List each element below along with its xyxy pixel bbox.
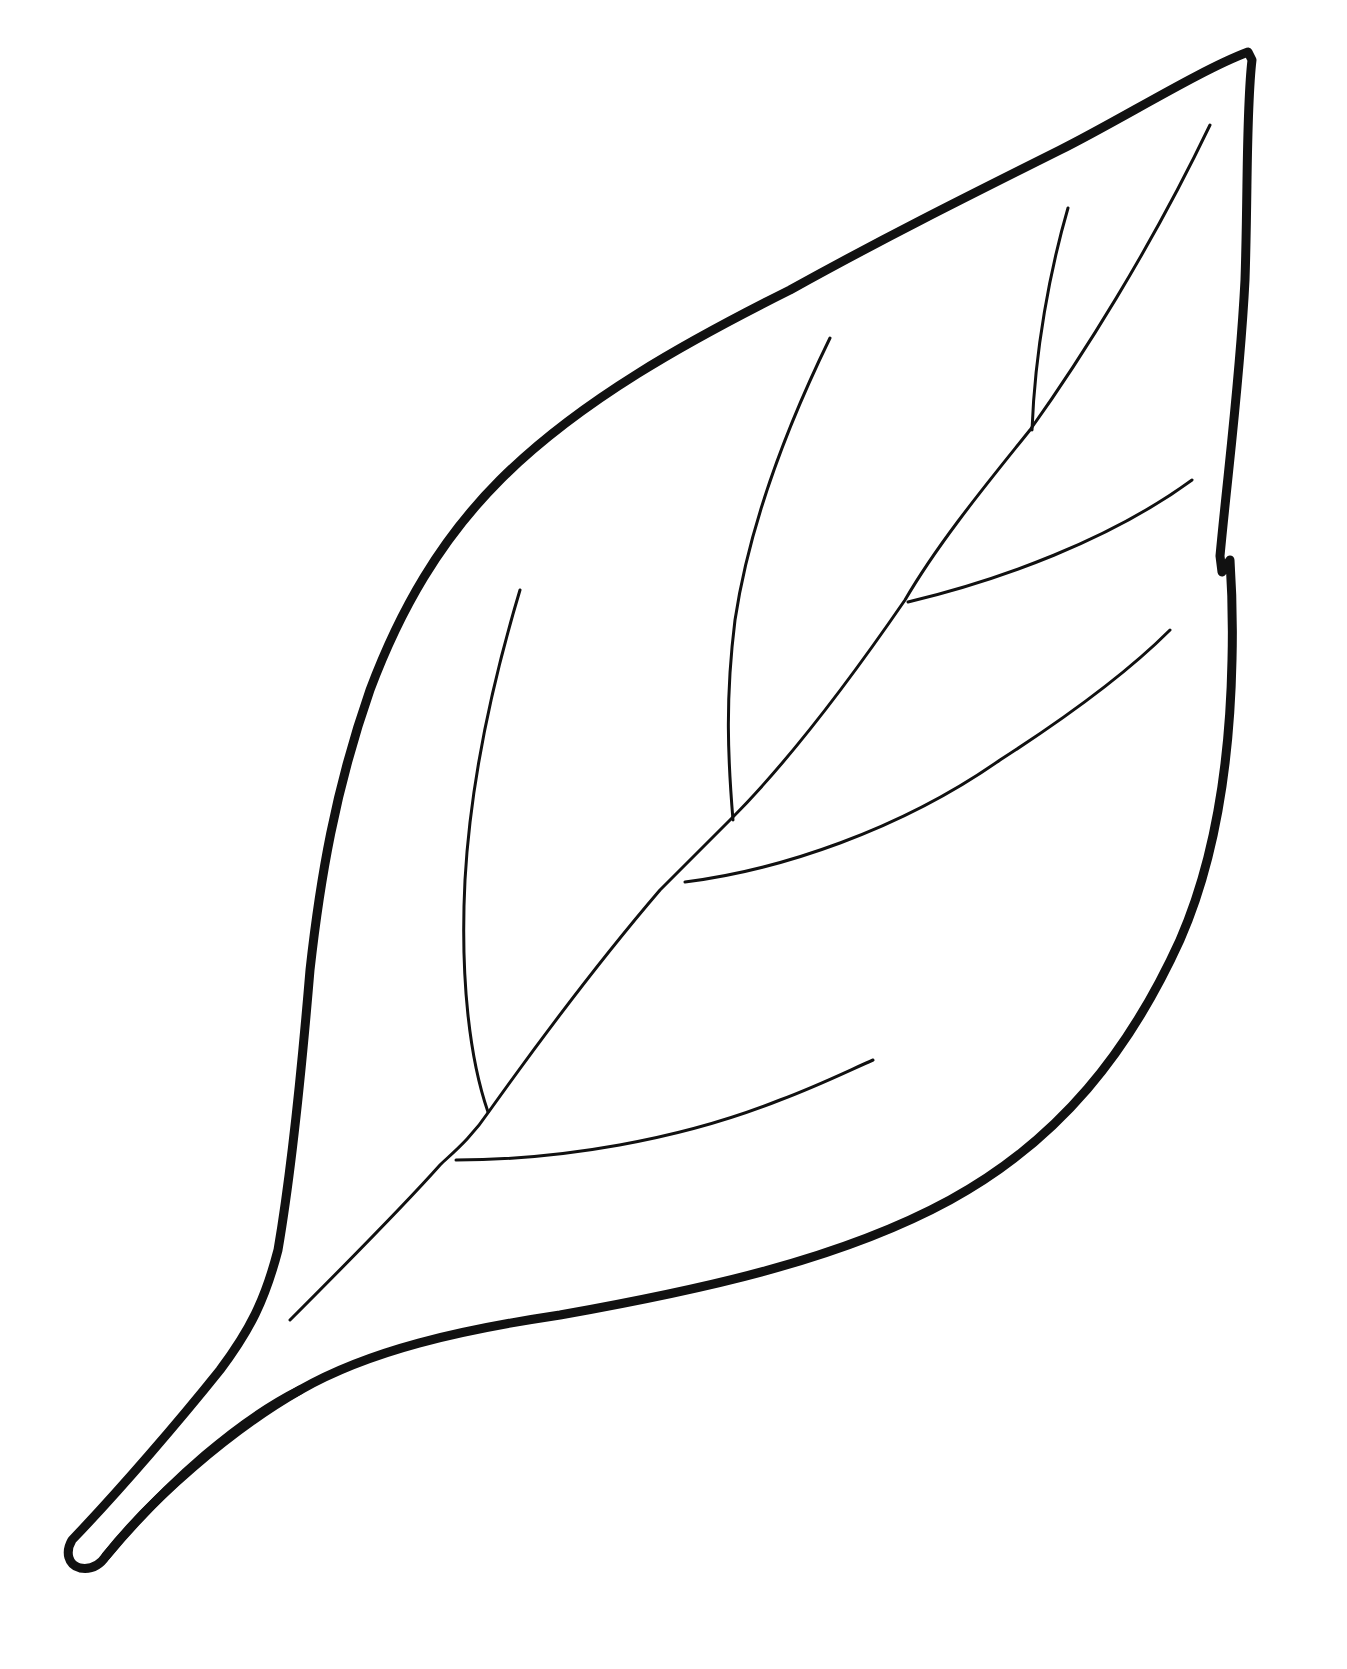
leaf-vein: [728, 338, 830, 820]
leaf-drawing-canvas: Leaf outline coloring page: [0, 0, 1347, 1669]
leaf-midrib: [290, 125, 1210, 1320]
leaf-vein: [685, 630, 1170, 882]
leaf-vein: [464, 590, 520, 1112]
leaf-outline: [68, 52, 1252, 1568]
leaf-vein: [1032, 208, 1068, 430]
leaf-vein: [456, 1060, 873, 1160]
leaf-illustration: [0, 0, 1347, 1669]
leaf-vein: [908, 480, 1192, 602]
